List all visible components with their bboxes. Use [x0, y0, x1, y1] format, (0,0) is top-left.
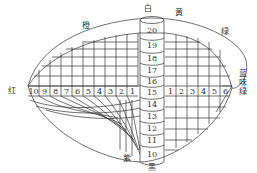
- value-step: 11: [140, 136, 164, 145]
- chroma-cell: 4: [94, 87, 105, 96]
- chroma-cell: 3: [187, 87, 198, 96]
- value-step: 14: [140, 100, 164, 109]
- value-label-white: 白: [144, 4, 152, 13]
- value-step: 10: [140, 150, 164, 159]
- value-step: 18: [140, 54, 164, 63]
- chroma-cell: 5: [83, 87, 94, 96]
- chroma-cell: 2: [116, 87, 127, 96]
- value-step: 13: [140, 112, 164, 121]
- chroma-cell: 9: [39, 87, 50, 96]
- hue-label-purple: 紫: [123, 154, 131, 163]
- hue-label-yellow: 黄: [175, 8, 183, 17]
- value-step: 17: [140, 66, 164, 75]
- value-step-center: 15: [140, 88, 164, 97]
- chroma-cell: 10: [28, 87, 39, 96]
- hue-label-orange: 橙: [82, 21, 90, 30]
- chroma-cell: 6: [220, 87, 231, 96]
- value-step: 19: [140, 41, 164, 50]
- hue-label-red: 红: [8, 86, 16, 95]
- chroma-cell: 5: [209, 87, 220, 96]
- chroma-cell: 6: [72, 87, 83, 96]
- hue-label-bluish-green: 蓝味绿: [238, 69, 247, 96]
- chroma-cell: 4: [198, 87, 209, 96]
- right-chroma-row: 1 2 3 4 5 6: [165, 87, 231, 96]
- chroma-cell: 1: [127, 87, 138, 96]
- chroma-cell: 8: [50, 87, 61, 96]
- value-step: 20: [140, 26, 164, 35]
- value-step: 16: [140, 77, 164, 86]
- hue-label-green: 绿: [221, 27, 229, 36]
- left-chroma-row: 10 9 8 7 6 5 4 3 2 1: [28, 87, 138, 96]
- chroma-cell: 2: [176, 87, 187, 96]
- color-solid-diagram: 橙 白 黄 绿 蓝味绿 红 紫 黑 10 9 8 7 6 5 4 3 2 1 1…: [0, 0, 257, 173]
- chroma-cell: 7: [61, 87, 72, 96]
- chroma-cell: 3: [105, 87, 116, 96]
- chroma-cell: 1: [165, 87, 176, 96]
- value-label-black: 黑: [148, 163, 156, 172]
- value-step: 12: [140, 124, 164, 133]
